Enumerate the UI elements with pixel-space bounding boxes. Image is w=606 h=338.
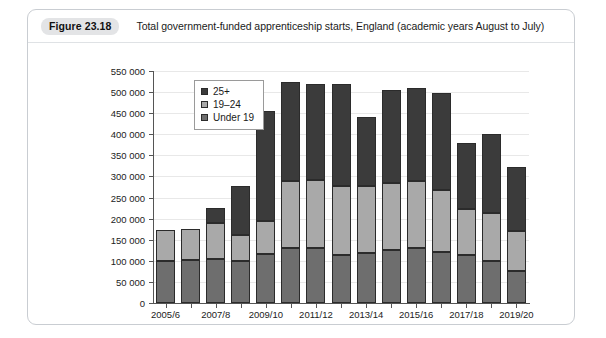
bar-segment-under-19 (256, 254, 275, 303)
x-axis-tick-mark (316, 304, 317, 308)
bar-segment-19-24 (432, 190, 451, 251)
x-axis-tick-mark (166, 304, 167, 308)
figure-title: Total government-funded apprenticeship s… (136, 20, 544, 32)
figure-caption-bar: Figure 23.18 Total government-funded app… (28, 10, 574, 43)
y-axis-tick-labels: 050 000100 000150 000200 000250 000300 0… (83, 43, 145, 325)
bar-segment-19-24 (332, 186, 351, 255)
bar-2010-11 (281, 82, 300, 303)
x-axis-tick-mark (266, 304, 267, 308)
bar-segment-19-24 (231, 235, 250, 262)
legend-item: 25+ (201, 85, 254, 98)
y-axis-tick-label: 350 000 (89, 150, 145, 161)
y-axis-tick-label: 250 000 (89, 192, 145, 203)
x-axis-tick-label: 2005/6 (151, 309, 180, 320)
bar-segment-25- (507, 167, 526, 232)
bar-2013-14 (357, 117, 376, 303)
y-axis-tick-label: 500 000 (89, 87, 145, 98)
bar-segment-under-19 (457, 255, 476, 303)
x-axis-tick-mark (391, 304, 392, 308)
x-axis-tick-mark (241, 304, 242, 308)
bar-segment-19-24 (156, 230, 175, 262)
y-axis-tick-label: 550 000 (89, 66, 145, 77)
x-axis-tick-mark (441, 304, 442, 308)
bar-2015-16 (407, 88, 426, 303)
bar-segment-19-24 (206, 223, 225, 258)
bar-segment-under-19 (407, 248, 426, 303)
x-axis-tick-mark (466, 304, 467, 308)
bar-2011-12 (306, 84, 325, 303)
bar-segment-19-24 (482, 213, 501, 261)
bar-segment-19-24 (181, 229, 200, 259)
bar-segment-under-19 (382, 250, 401, 303)
bar-2019-20 (507, 167, 526, 303)
x-axis-tick-mark (491, 304, 492, 308)
x-axis-tick-mark (516, 304, 517, 308)
bar-segment-19-24 (407, 181, 426, 248)
legend-swatch-icon (201, 88, 208, 95)
x-axis-tick-mark (191, 304, 192, 308)
bar-segment-under-19 (231, 261, 250, 303)
y-axis-tick-label: 0 (89, 298, 145, 309)
bar-segment-25- (382, 90, 401, 183)
bar-segment-19-24 (256, 221, 275, 253)
y-axis-tick-label: 400 000 (89, 129, 145, 140)
legend-label: 25+ (213, 86, 230, 97)
legend-label: Under 19 (213, 112, 254, 123)
bar-2014-15 (382, 90, 401, 303)
x-axis-tick-mark (366, 304, 367, 308)
bar-segment-19-24 (306, 180, 325, 248)
bar-segment-19-24 (457, 209, 476, 255)
bar-segment-25- (407, 88, 426, 181)
bar-segment-under-19 (507, 271, 526, 303)
x-axis-tick-mark (416, 304, 417, 308)
bar-segment-19-24 (382, 183, 401, 250)
bar-2018-19 (482, 134, 501, 303)
x-axis-tick-label: 2017/18 (449, 309, 483, 320)
bar-segment-25- (231, 186, 250, 235)
bar-segment-25- (332, 84, 351, 186)
x-axis-tick-label: 2019/20 (499, 309, 533, 320)
bar-segment-19-24 (281, 181, 300, 248)
legend-swatch-icon (201, 114, 208, 121)
bar-segment-under-19 (357, 253, 376, 303)
bar-segment-25- (457, 143, 476, 210)
bar-segment-25- (306, 84, 325, 180)
bar-segment-under-19 (281, 248, 300, 303)
x-axis-tick-mark (216, 304, 217, 308)
bar-2006-7 (181, 229, 200, 303)
bar-segment-25- (281, 82, 300, 181)
bar-segment-under-19 (482, 261, 501, 303)
bar-2005-6 (156, 230, 175, 303)
bar-2016-17 (432, 93, 451, 303)
figure-card: Figure 23.18 Total government-funded app… (27, 9, 575, 325)
bar-segment-under-19 (181, 260, 200, 303)
bar-segment-25- (357, 117, 376, 186)
x-axis-tick-mark (291, 304, 292, 308)
figure-number-badge: Figure 23.18 (41, 18, 119, 35)
y-axis-tick-label: 200 000 (89, 213, 145, 224)
bar-segment-25- (206, 208, 225, 223)
legend-item: 19–24 (201, 98, 254, 111)
bar-segment-under-19 (432, 252, 451, 303)
y-axis-tick-label: 150 000 (89, 234, 145, 245)
bar-segment-under-19 (156, 261, 175, 303)
bar-segment-25- (432, 93, 451, 190)
legend-label: 19–24 (213, 99, 241, 110)
legend-swatch-icon (201, 101, 208, 108)
x-axis-tick-label: 2007/8 (201, 309, 230, 320)
y-axis-tick-label: 50 000 (89, 276, 145, 287)
x-axis-tick-label: 2009/10 (249, 309, 283, 320)
y-axis-tick-label: 450 000 (89, 108, 145, 119)
chart-legend: 25+19–24Under 19 (194, 80, 264, 130)
x-axis-tick-label: 2013/14 (349, 309, 383, 320)
bar-2012-13 (332, 84, 351, 303)
chart-plot-wrapper: 050 000100 000150 000200 000250 000300 0… (28, 43, 574, 325)
bar-segment-under-19 (332, 255, 351, 303)
bar-segment-19-24 (357, 186, 376, 253)
bar-2007-8 (206, 208, 225, 303)
bar-segment-25- (482, 134, 501, 212)
bar-2017-18 (457, 143, 476, 303)
x-axis-tick-mark (341, 304, 342, 308)
legend-item: Under 19 (201, 111, 254, 124)
y-axis-tick-mark (149, 303, 153, 304)
